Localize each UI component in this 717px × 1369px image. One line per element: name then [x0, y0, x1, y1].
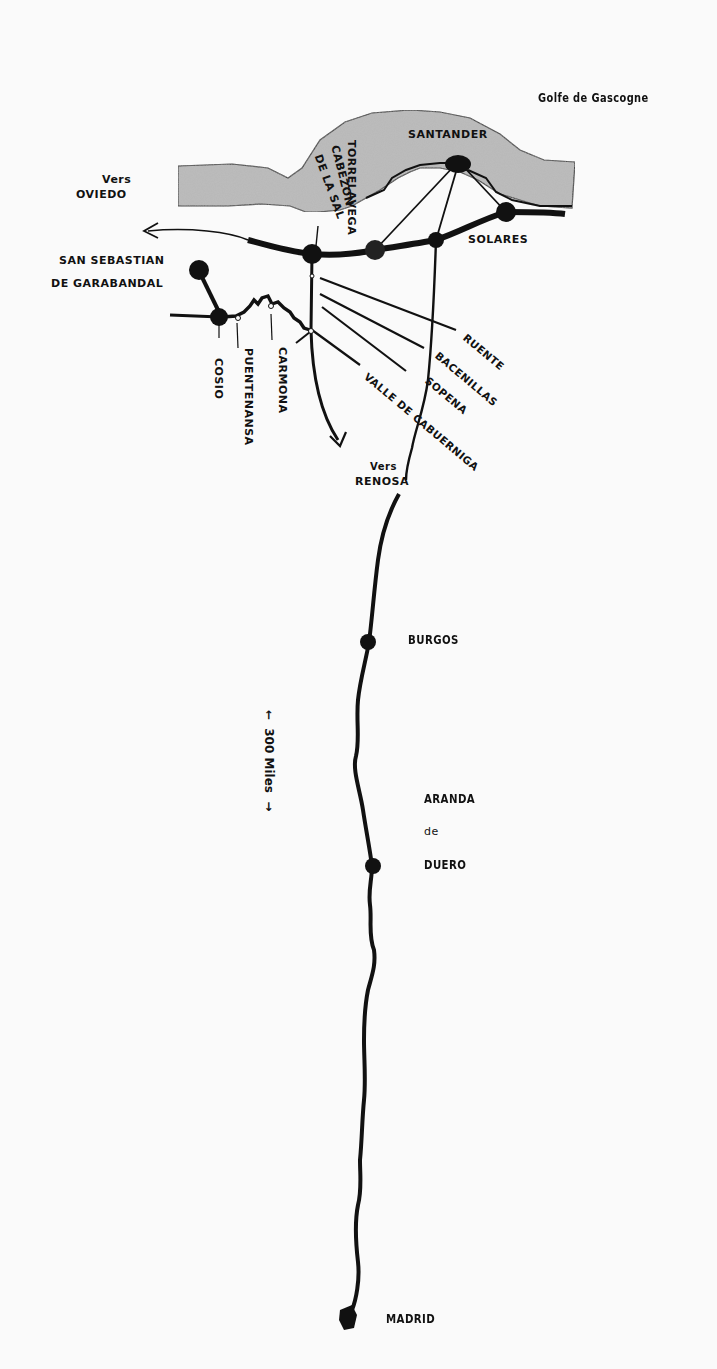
road-bacenillas — [320, 294, 424, 348]
node-junction-south — [309, 329, 314, 334]
aranda-label-2: de — [424, 826, 439, 837]
node-garabandal — [189, 260, 209, 280]
road-zigzag — [222, 296, 310, 330]
road-santander-junction — [436, 165, 458, 240]
node-solares — [496, 202, 516, 222]
scale-arrow-end-icon: → — [262, 801, 276, 811]
node-cosio — [210, 308, 228, 326]
renosa-label: RENOSA — [355, 476, 409, 487]
node-cabezon — [302, 244, 322, 264]
sea-label: Golfe de Gascogne — [538, 92, 649, 104]
road-renosa-madrid — [352, 494, 399, 1310]
road-renosa — [406, 240, 436, 480]
cosio-label: COSIO — [213, 358, 224, 399]
santander-label: SANTANDER — [408, 129, 488, 140]
node-burgos — [360, 634, 376, 650]
aranda-label-1: ARANDA — [424, 793, 475, 805]
road-cross — [296, 332, 310, 343]
node-junction-east — [428, 232, 444, 248]
scale-label: 300 Miles — [262, 728, 276, 793]
node-santander — [445, 155, 471, 173]
node-carmona — [269, 304, 274, 309]
aranda-label-3: DUERO — [424, 859, 466, 871]
madrid-label: MADRID — [386, 1313, 435, 1325]
tick-cabezon — [316, 226, 318, 246]
node-cabezon-small — [310, 274, 314, 278]
road-oviedo-arrow — [148, 230, 248, 240]
coast-band — [178, 110, 575, 212]
scale-indicator: ← 300 Miles → — [262, 710, 276, 811]
scale-arrow-start-icon: ← — [262, 710, 276, 720]
road-valle — [312, 330, 360, 365]
route-map — [0, 0, 717, 1369]
garabandal-label-2: DE GARABANDAL — [51, 278, 163, 289]
node-torrelavega — [365, 240, 385, 260]
carmona-label: CARMONA — [277, 347, 288, 414]
node-puentenansa — [236, 316, 241, 321]
burgos-label: BURGOS — [408, 634, 459, 646]
puentenansa-label: PUENTENANSA — [243, 348, 254, 446]
node-aranda — [365, 858, 381, 874]
renosa-prefix: Vers — [370, 462, 397, 472]
tick-puentenansa — [237, 323, 238, 348]
oviedo-label: OVIEDO — [76, 189, 127, 200]
solares-label: SOLARES — [468, 234, 528, 245]
garabandal-label-1: SAN SEBASTIAN — [59, 255, 165, 266]
oviedo-prefix: Vers — [102, 174, 131, 185]
tick-carmona — [271, 314, 272, 340]
